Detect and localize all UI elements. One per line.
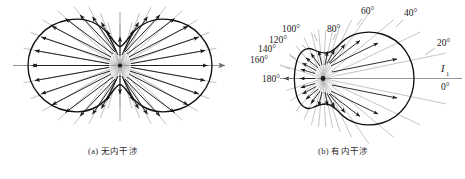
panel-b-caption-text: 有内干涉 <box>331 146 368 156</box>
angle-label-140: 140° <box>258 44 276 54</box>
figure-svg: 20° 40° 60° 80° 100° 120° 140° 160° 180°… <box>0 0 465 179</box>
current-axis-label: I 1 <box>440 63 449 77</box>
panel-a-origin <box>118 63 122 67</box>
panel-b-caption-label: (b) <box>318 146 329 156</box>
panel-a-caption-label: (a) <box>88 146 98 156</box>
panel-a-caption: (a) 无内干涉 <box>88 144 138 156</box>
panel-b-group: 20° 40° 60° 80° 100° 120° 140° 160° 180°… <box>250 6 462 144</box>
panel-a-group <box>13 7 225 125</box>
angle-label-0: 0° <box>441 82 450 92</box>
angle-label-60: 60° <box>361 6 375 16</box>
angle-label-100: 100° <box>282 24 300 34</box>
current-subscript: 1 <box>446 70 449 77</box>
panel-b-angle-labels: 20° 40° 60° 80° 100° 120° 140° 160° 180°… <box>250 6 451 92</box>
panel-b-caption: (b) 有内干涉 <box>318 144 368 156</box>
panel-a-caption-text: 无内干涉 <box>101 146 138 156</box>
current-symbol: I <box>440 63 445 74</box>
figure-root: 20° 40° 60° 80° 100° 120° 140° 160° 180°… <box>0 0 465 179</box>
angle-label-80: 80° <box>327 24 341 34</box>
panel-b-origin <box>321 76 326 81</box>
angle-label-20: 20° <box>437 38 451 48</box>
angle-label-180: 180° <box>262 74 280 84</box>
angle-label-160: 160° <box>250 55 268 65</box>
angle-label-40: 40° <box>404 8 418 18</box>
